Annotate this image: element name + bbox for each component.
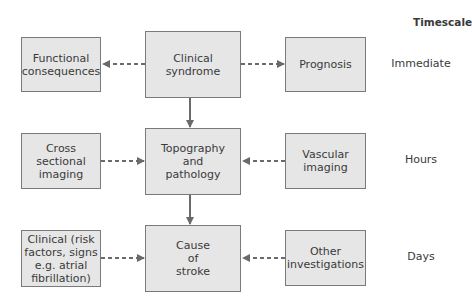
box-clinical-risk-factors: Clinical (risk factors, signs e.g. atria…: [21, 230, 101, 287]
box-cause-of-stroke: Cause of stroke: [145, 225, 241, 292]
box-topography-pathology: Topography and pathology: [145, 128, 241, 195]
box-clinical-syndrome: Clinical syndrome: [145, 31, 241, 98]
timescale-heading: Timescale: [413, 16, 472, 28]
timescale-hours: Hours: [385, 153, 457, 166]
box-prognosis: Prognosis: [285, 37, 366, 92]
timescale-days: Days: [385, 250, 457, 263]
timescale-immediate: Immediate: [385, 57, 457, 70]
box-vascular-imaging: Vascular imaging: [285, 133, 366, 189]
box-functional-consequences: Functional consequences: [21, 37, 101, 92]
box-other-investigations: Other investigations: [285, 230, 366, 286]
box-cross-sectional-imaging: Cross sectional imaging: [21, 133, 101, 189]
